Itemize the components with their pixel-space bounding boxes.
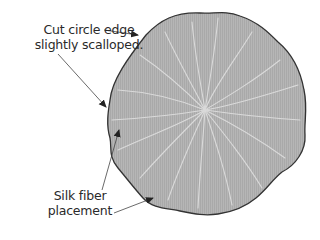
label-silk-fiber-placement: Silk fiber placement: [40, 188, 120, 218]
label-fiber-line2: placement: [40, 203, 120, 218]
label-edge-line2: slightly scalloped.: [24, 37, 154, 52]
label-fiber-line1: Silk fiber: [40, 188, 120, 203]
arrow-edge-left: [58, 54, 106, 107]
label-edge-line1: Cut circle edge: [24, 22, 154, 37]
label-cut-circle-edge: Cut circle edge slightly scalloped.: [24, 22, 154, 52]
